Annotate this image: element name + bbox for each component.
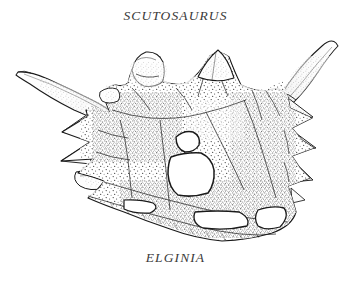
right-dorsal-spike-icon [198,50,234,81]
marginal-spikes-right-icon [288,98,316,203]
cranial-suture-lines [88,68,288,235]
lower-margin-hatching [110,202,259,240]
dorsal-boss-icon [130,52,168,90]
pareiasaur-skull-figure [0,0,351,286]
left-cheek-horn-icon [16,71,118,124]
illustration-plate: SCUTOSAURUS [0,0,351,286]
marginal-spikes-left-icon [61,114,91,164]
orbital-fenestra-icon [168,153,214,196]
bottom-caption-elginia: ELGINIA [0,250,351,266]
horn-base-boss-icon [99,88,119,103]
jaw-fenestrae-icon [124,200,286,229]
cranium-body [61,50,320,245]
right-cheek-horn-icon [278,41,338,108]
left-lower-flange-icon [75,171,110,190]
occipital-edge-detail [252,90,289,182]
top-caption-scutosaurus: SCUTOSAURUS [0,8,351,24]
naris-opening-icon [176,132,199,152]
